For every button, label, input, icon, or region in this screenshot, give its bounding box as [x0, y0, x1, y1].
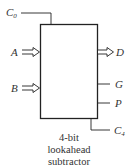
subtractor-block-diagram: C0 A B D G P C4 4-bit lookahead subtract… [0, 0, 137, 168]
g-label: G [115, 78, 123, 90]
b-label: B [11, 82, 18, 94]
b-input: B [11, 82, 40, 94]
c4-label: C4 [114, 124, 125, 138]
g-output: G [98, 78, 123, 90]
caption-line-1: 4-bit [59, 132, 79, 143]
c4-output: C4 [91, 118, 125, 138]
d-label: D [115, 46, 124, 58]
a-label: A [10, 46, 18, 58]
c0-label: C0 [6, 6, 17, 20]
b-bus-arrow-icon [22, 84, 40, 93]
p-label: P [114, 97, 122, 109]
p-output: P [98, 97, 122, 109]
a-bus-arrow-icon [22, 48, 40, 57]
caption-line-3: subtractor [48, 156, 90, 167]
d-output: D [98, 46, 124, 58]
block-caption: 4-bit lookahead subtractor [47, 132, 91, 167]
c0-input: C0 [6, 6, 51, 24]
subtractor-block [41, 25, 98, 119]
caption-line-2: lookahead [47, 144, 91, 155]
d-bus-arrow-icon [98, 48, 114, 57]
a-input: A [10, 46, 40, 58]
